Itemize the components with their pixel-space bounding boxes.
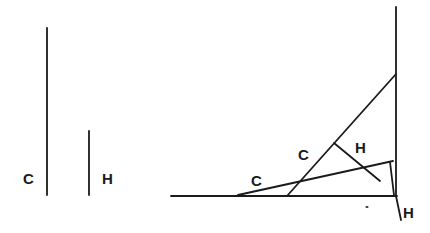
geometry-diagram: C H C C H H — [0, 0, 430, 233]
construction-group: C C H H — [171, 7, 414, 221]
h-short-vertical — [390, 162, 394, 195]
reference-c-label: C — [23, 170, 34, 187]
c-diagonal-steep — [287, 74, 396, 196]
construction-c-label-steep: C — [298, 146, 309, 163]
construction-h-label-tail: H — [403, 204, 414, 221]
construction-h-label-perpendicular: H — [355, 139, 366, 156]
reference-h-label: H — [102, 170, 113, 187]
mark-dot — [365, 206, 368, 208]
reference-group: C H — [23, 28, 113, 195]
construction-c-label-shallow: C — [251, 172, 262, 189]
h-tail — [396, 196, 401, 220]
